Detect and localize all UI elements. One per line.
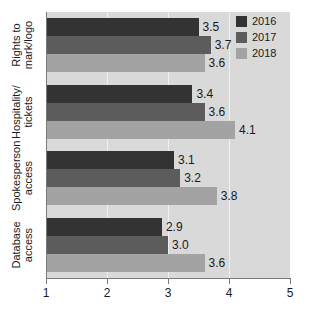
category-label-line: Database [10,212,22,278]
legend-item-2017: 2017 [236,32,276,43]
category-label-line: tickets [22,79,34,145]
bar [46,236,168,254]
category-label: Spokespersonaccess [10,145,34,211]
legend-swatch-2018 [236,48,247,59]
bar [46,169,180,187]
bar-value-label: 3.6 [209,54,226,72]
bar [46,254,205,272]
bar-value-label: 3.4 [196,85,213,103]
bar-value-label: 3.0 [172,236,189,254]
x-axis-tick-label: 2 [104,286,111,300]
legend-label-2017: 2017 [252,32,276,43]
x-axis-tick-label: 5 [287,286,294,300]
category-label-line: access [22,145,34,211]
bar-value-label: 3.7 [215,36,232,54]
bar [46,54,205,72]
bar [46,187,217,205]
bar [46,218,162,236]
y-axis-line [46,12,47,279]
x-axis-tick-mark [290,279,291,284]
category-label-line: Rights to [10,12,22,78]
bar [46,151,174,169]
category-label-line: access [22,212,34,278]
bar-value-label: 3.2 [184,169,201,187]
category-label-line: Hospitality/ [10,79,22,145]
x-axis-tick-label: 3 [165,286,172,300]
bar-value-label: 2.9 [166,218,183,236]
category-label-line: mark/logo [22,12,34,78]
bar-value-label: 3.5 [203,18,220,36]
x-axis-tick-mark [168,279,169,284]
bar-value-label: 4.1 [239,121,256,139]
bar [46,103,205,121]
category-label: Databaseaccess [10,212,34,278]
x-axis-tick-mark [107,279,108,284]
legend-label-2016: 2016 [252,16,276,27]
bar-value-label: 3.6 [209,254,226,272]
category-label-line: Spokesperson [10,145,22,211]
legend-item-2016: 2016 [236,16,276,27]
category-label: Rights tomark/logo [10,12,34,78]
bar [46,85,192,103]
x-axis-tick-label: 1 [43,286,50,300]
bar-value-label: 3.6 [209,103,226,121]
x-axis-tick-mark [46,279,47,284]
legend-label-2018: 2018 [252,48,276,59]
bar [46,18,199,36]
bar-chart-figure: 3.53.73.63.43.64.13.13.23.82.93.03.6 Rig… [0,0,310,317]
bar-value-label: 3.8 [221,187,238,205]
category-label: Hospitality/tickets [10,79,34,145]
bar [46,121,235,139]
x-axis-tick-label: 4 [226,286,233,300]
legend-item-2018: 2018 [236,48,276,59]
legend: 2016 2017 2018 [236,16,276,59]
x-axis-tick-mark [229,279,230,284]
legend-swatch-2017 [236,32,247,43]
legend-swatch-2016 [236,16,247,27]
bar [46,36,211,54]
bar-value-label: 3.1 [178,151,195,169]
